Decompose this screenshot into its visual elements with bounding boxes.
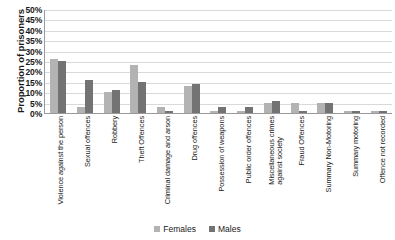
x-axis-label: Drug offences — [191, 116, 199, 161]
y-axis-tick: 5% — [16, 100, 42, 108]
bar-males — [325, 103, 333, 113]
x-axis-label-cell: Summary Non-Motoring — [312, 116, 339, 218]
x-axis-label: Public order offences — [245, 116, 253, 183]
chart-legend: FemalesMales — [0, 222, 395, 236]
bar-group — [365, 10, 392, 113]
legend-item-m[interactable]: Males — [209, 225, 241, 234]
bar-males — [85, 80, 93, 113]
bar-females — [237, 111, 245, 113]
bar-group — [285, 10, 312, 113]
bar-females — [50, 59, 58, 113]
x-axis-label: Offence not recorded — [379, 116, 387, 183]
bar-group — [339, 10, 366, 113]
x-axis-label: Sexual offences — [84, 116, 92, 167]
bar-females — [157, 107, 165, 113]
x-axis-label-line: Robbery — [111, 116, 119, 143]
bar-males — [112, 90, 120, 113]
legend-item-f[interactable]: Females — [154, 225, 196, 234]
y-axis-tick: 0% — [16, 110, 42, 118]
x-axis-label-cell: Fraud Offences — [285, 116, 312, 218]
y-axis-tick: 50% — [16, 6, 42, 14]
bar-group — [98, 10, 125, 113]
bar-females — [210, 111, 218, 113]
y-axis-tick: 35% — [16, 37, 42, 45]
bar-group — [312, 10, 339, 113]
x-axis-label: Criminal damage and arson — [164, 116, 172, 204]
bar-males — [352, 111, 360, 113]
x-axis-label-line: Violence against the person — [57, 116, 65, 204]
bar-group — [45, 10, 72, 113]
x-axis-label-line: Summary Non-Motoring — [325, 116, 333, 192]
bar-group — [178, 10, 205, 113]
bar-males — [299, 111, 307, 113]
x-axis-label-cell: Theft Offences — [124, 116, 151, 218]
y-axis-tick-labels: 50%45%40%35%30%25%20%15%10%5%0% — [16, 6, 42, 118]
bar-males — [58, 61, 66, 113]
bar-chart: Proportion of prisoners 50%45%40%35%30%2… — [0, 0, 395, 240]
bar-group — [259, 10, 286, 113]
x-axis-label-line: Drug offences — [191, 116, 199, 161]
x-axis-label-line: Possession of weapons — [218, 116, 226, 192]
x-axis-label-cell: Summary motoring — [338, 116, 365, 218]
x-axis-label-cell: Offence not recorded — [365, 116, 392, 218]
x-axis-label: Fraud Offences — [298, 116, 306, 165]
y-axis-tick: 10% — [16, 89, 42, 97]
bar-females — [291, 103, 299, 113]
x-axis-label: Theft Offences — [138, 116, 146, 163]
bar-females — [104, 92, 112, 113]
bar-males — [272, 101, 280, 113]
bar-females — [317, 103, 325, 113]
x-axis-label-cell: Violence against the person — [44, 116, 71, 218]
x-axis-label-cell: Public order offences — [231, 116, 258, 218]
x-axis-label-cell: Miscellaneous crimesagainst society — [258, 116, 285, 218]
bar-males — [165, 111, 173, 113]
y-axis-tick: 20% — [16, 68, 42, 76]
bar-females — [371, 111, 379, 113]
x-axis-label-cell: Possession of weapons — [205, 116, 232, 218]
y-axis-tick: 25% — [16, 58, 42, 66]
x-axis-label: Summary Non-Motoring — [325, 116, 333, 192]
x-axis-label-line: Theft Offences — [138, 116, 146, 163]
legend-label: Males — [218, 225, 241, 234]
y-axis-tick: 30% — [16, 48, 42, 56]
x-axis-label-line: Public order offences — [245, 116, 253, 183]
bar-males — [245, 107, 253, 113]
legend-label: Females — [163, 225, 196, 234]
bar-females — [344, 111, 352, 113]
cropped-top-edge — [0, 0, 395, 5]
bar-females — [77, 107, 85, 113]
x-axis-label: Robbery — [111, 116, 119, 143]
bar-group — [232, 10, 259, 113]
bar-males — [379, 111, 387, 113]
x-axis-label-line: Criminal damage and arson — [164, 116, 172, 204]
bar-group — [205, 10, 232, 113]
x-axis-label-line: Sexual offences — [84, 116, 92, 167]
bar-females — [264, 103, 272, 113]
x-axis-label-line: against society — [276, 116, 284, 185]
bar-females — [130, 65, 138, 113]
x-axis-label-cell: Criminal damage and arson — [151, 116, 178, 218]
x-axis-label: Summary motoring — [352, 116, 360, 177]
x-axis-label-cell: Sexual offences — [71, 116, 98, 218]
bar-males — [218, 107, 226, 113]
y-axis-tick: 45% — [16, 16, 42, 24]
bar-group — [125, 10, 152, 113]
legend-swatch-icon — [209, 226, 215, 232]
legend-swatch-icon — [154, 226, 160, 232]
x-axis-label: Possession of weapons — [218, 116, 226, 192]
x-axis-label-cell: Robbery — [98, 116, 125, 218]
bar-group — [72, 10, 99, 113]
x-axis-label-line: Fraud Offences — [298, 116, 306, 165]
x-axis-label: Miscellaneous crimesagainst society — [268, 116, 284, 185]
x-axis-label-line: Summary motoring — [352, 116, 360, 177]
y-axis-tick: 15% — [16, 79, 42, 87]
x-axis-tick-labels: Violence against the personSexual offenc… — [44, 116, 392, 218]
bar-males — [138, 82, 146, 113]
bar-group — [152, 10, 179, 113]
bar-females — [184, 86, 192, 113]
bar-males — [192, 84, 200, 113]
bar-groups — [45, 10, 392, 113]
plot-area — [44, 10, 392, 114]
x-axis-label-line: Offence not recorded — [379, 116, 387, 183]
x-axis-label-cell: Drug offences — [178, 116, 205, 218]
